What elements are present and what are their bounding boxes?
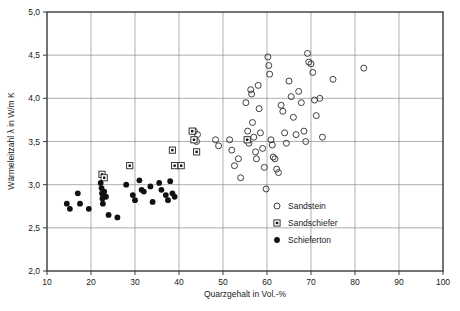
y-tick-label: 2,5 (28, 223, 40, 233)
data-point-square-center-dot (103, 177, 105, 179)
data-point-open-circle-marker (260, 145, 266, 151)
data-point-open-circle-marker (243, 100, 249, 106)
data-point-filled-circle-marker (103, 194, 109, 200)
data-point-open-circle-marker (255, 82, 261, 88)
x-axis-title: Quarzgehalt in Vol.-% (204, 289, 287, 299)
data-point-filled-circle-marker (67, 206, 73, 212)
y-tick-label: 5,0 (28, 7, 40, 17)
series-sandstein (191, 50, 366, 192)
data-point-open-circle-marker (272, 156, 278, 162)
x-tick-label: 90 (394, 277, 404, 287)
data-point-square-center-dot (180, 164, 182, 166)
data-point-open-circle-marker (274, 166, 280, 172)
y-axis-title: Wärmeleitzahl λ in W/m K (6, 92, 16, 190)
data-point-filled-circle-marker (167, 178, 173, 184)
x-tick-label: 70 (306, 277, 316, 287)
legend: SandsteinSandschieferSchieferton (274, 201, 338, 245)
data-point-square-center-dot (193, 139, 195, 141)
data-point-open-circle-marker (275, 170, 281, 176)
data-point-square-center-dot (171, 149, 173, 151)
data-point-filled-circle-marker (130, 192, 136, 198)
data-point-open-circle-marker (288, 94, 294, 100)
data-point-open-circle-marker (267, 71, 273, 77)
legend-label: Sandschiefer (288, 218, 338, 228)
legend-square-center-dot (276, 222, 278, 224)
data-point-open-circle-marker (313, 113, 319, 119)
x-tick-label: 20 (86, 277, 96, 287)
data-point-filled-circle-marker (148, 183, 154, 189)
data-point-open-circle-marker (238, 175, 244, 181)
data-point-open-circle-marker (270, 154, 276, 160)
data-point-open-circle-marker (261, 164, 267, 170)
data-point-open-circle-marker (257, 130, 263, 136)
data-point-open-circle-marker (330, 76, 336, 82)
data-point-square-center-dot (129, 164, 131, 166)
data-point-open-circle-marker (319, 134, 325, 140)
legend-item-sandstein: Sandstein (274, 201, 326, 211)
x-tick-label: 60 (262, 277, 272, 287)
axis-ticks (43, 12, 443, 275)
data-point-open-circle-marker (227, 137, 233, 143)
x-tick-label: 100 (436, 277, 450, 287)
data-point-open-circle-marker (251, 134, 257, 140)
data-point-open-circle-marker (296, 88, 302, 94)
series-schieferton (64, 177, 178, 220)
legend-label: Sandstein (288, 201, 326, 211)
data-point-filled-circle-marker (75, 190, 81, 196)
data-point-open-circle-marker (245, 128, 251, 134)
x-tick-label: 30 (130, 277, 140, 287)
data-point-open-circle-marker (253, 156, 259, 162)
chart-figure: 102030405060708090100 2,02,53,03,54,04,5… (0, 0, 460, 311)
data-point-square-center-dot (246, 139, 248, 141)
data-point-filled-circle-marker (159, 187, 165, 193)
scatter-plot-svg: 102030405060708090100 2,02,53,03,54,04,5… (0, 0, 460, 311)
data-point-filled-circle-marker (132, 197, 138, 203)
data-point-square-center-dot (195, 151, 197, 153)
data-point-filled-circle-marker (77, 201, 83, 207)
data-point-open-circle-marker (229, 147, 235, 153)
x-tick-label: 50 (218, 277, 228, 287)
data-point-filled-circle-marker (156, 180, 162, 186)
y-tick-label: 2,0 (28, 266, 40, 276)
data-point-filled-circle-marker (137, 177, 143, 183)
data-point-open-circle-marker (249, 91, 255, 97)
data-point-filled-circle-marker (98, 180, 104, 186)
data-point-filled-circle-marker (150, 199, 156, 205)
data-point-square-center-dot (173, 164, 175, 166)
data-point-open-circle-marker (283, 140, 289, 146)
data-point-filled-circle-marker (101, 189, 107, 195)
legend-open-circle-marker (274, 203, 280, 209)
data-point-open-circle-marker (301, 128, 307, 134)
x-tick-labels: 102030405060708090100 (42, 277, 450, 287)
data-point-open-circle-marker (290, 114, 296, 120)
x-tick-label: 80 (350, 277, 360, 287)
data-point-open-circle-marker (263, 186, 269, 192)
data-point-open-circle-marker (216, 143, 222, 149)
y-tick-label: 4,5 (28, 50, 40, 60)
data-point-filled-circle-marker (106, 212, 112, 218)
data-point-filled-circle-marker (123, 182, 129, 188)
x-tick-label: 10 (42, 277, 52, 287)
legend-item-sandschiefer: Sandschiefer (274, 218, 338, 228)
data-point-open-circle-marker (235, 156, 241, 162)
legend-label: Schieferton (288, 235, 331, 245)
data-point-open-circle-marker (231, 163, 237, 169)
data-point-square-center-dot (191, 130, 193, 132)
legend-filled-circle-marker (274, 237, 280, 243)
y-tick-label: 3,0 (28, 180, 40, 190)
data-point-filled-circle-marker (100, 201, 106, 207)
data-point-open-circle-marker (304, 50, 310, 56)
data-point-open-circle-marker (286, 78, 292, 84)
data-point-filled-circle-marker (64, 201, 70, 207)
data-point-filled-circle-marker (141, 189, 147, 195)
data-points (64, 50, 367, 220)
y-tick-label: 4,0 (28, 93, 40, 103)
data-point-open-circle-marker (265, 54, 271, 60)
data-point-open-circle-marker (298, 100, 304, 106)
data-point-open-circle-marker (213, 137, 219, 143)
x-tick-label: 40 (174, 277, 184, 287)
data-point-filled-circle-marker (163, 192, 169, 198)
data-point-open-circle-marker (282, 130, 288, 136)
legend-item-schieferton: Schieferton (274, 235, 331, 245)
data-point-filled-circle-marker (86, 206, 92, 212)
